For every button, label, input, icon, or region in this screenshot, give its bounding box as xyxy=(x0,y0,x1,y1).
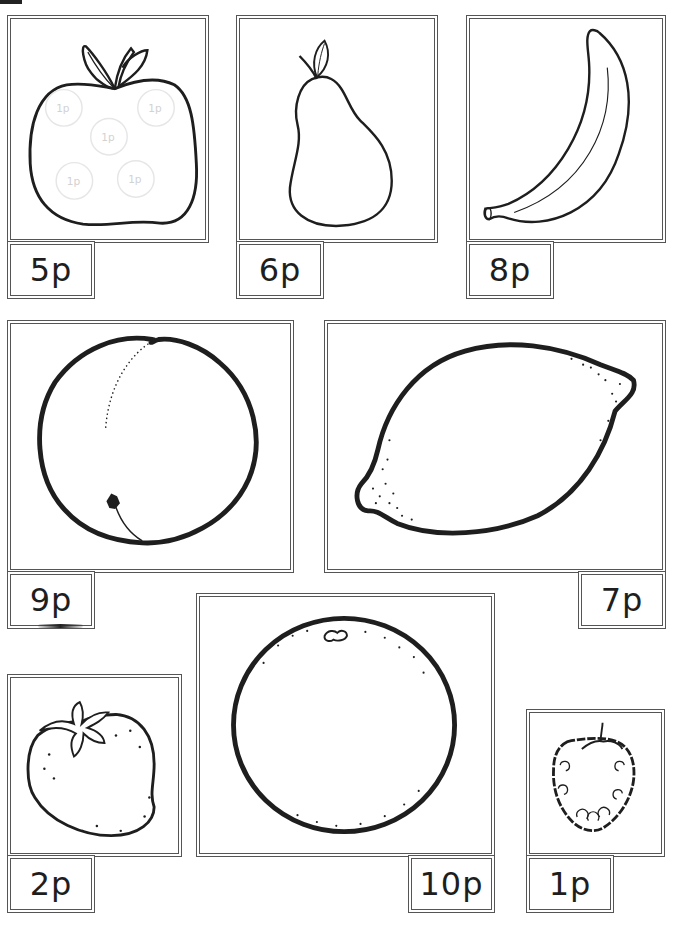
peach-icon xyxy=(11,324,290,569)
coin-1p: 1p xyxy=(67,175,81,187)
coin-1p: 1p xyxy=(56,102,70,114)
price-label-orange: 10p xyxy=(408,855,495,913)
card-lemon xyxy=(324,320,666,573)
price-label-strawberry: 2p xyxy=(7,855,95,913)
card-orange xyxy=(196,593,495,857)
coin-labels: 1p 1p 1p 1p 1p xyxy=(11,19,205,239)
coin-1p: 1p xyxy=(128,173,142,185)
price-label-apple: 5p xyxy=(7,241,95,299)
raspberry-icon xyxy=(530,713,661,853)
banana-icon xyxy=(470,19,662,239)
card-banana xyxy=(466,15,666,243)
price-label-peach: 9p xyxy=(7,571,95,629)
orange-icon xyxy=(200,597,491,853)
lemon-icon xyxy=(328,324,662,569)
price-label-raspberry: 1p xyxy=(526,855,614,913)
price-label-pear: 6p xyxy=(236,241,324,299)
coin-1p: 1p xyxy=(148,102,162,114)
coin-1p: 1p xyxy=(101,131,115,143)
print-smudge xyxy=(38,624,83,628)
price-label-banana: 8p xyxy=(466,241,554,299)
card-pear xyxy=(236,15,438,243)
card-apple: 1p 1p 1p 1p 1p xyxy=(7,15,209,243)
strawberry-icon xyxy=(11,678,178,853)
card-peach xyxy=(7,320,294,573)
corner-crop-mark xyxy=(0,0,22,4)
card-raspberry xyxy=(526,709,665,857)
price-label-lemon: 7p xyxy=(578,571,666,629)
pear-icon xyxy=(240,19,434,239)
card-strawberry xyxy=(7,674,182,857)
